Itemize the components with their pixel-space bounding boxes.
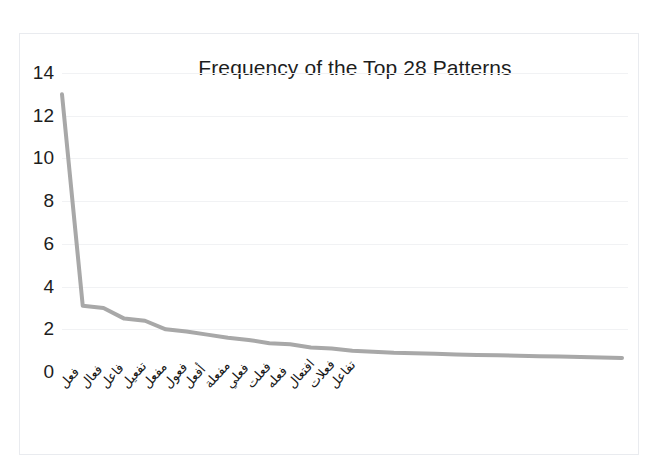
plot-area: 02468101214 فعلفعالفاعلتفعيلمفعلفعولأفعل… <box>0 0 659 476</box>
figure-canvas: Frequency of the Top 28 Patterns 0246810… <box>0 0 659 476</box>
x-axis-tick-labels: فعلفعالفاعلتفعيلمفعلفعولأفعلمفعلةفعليفعل… <box>0 0 659 476</box>
